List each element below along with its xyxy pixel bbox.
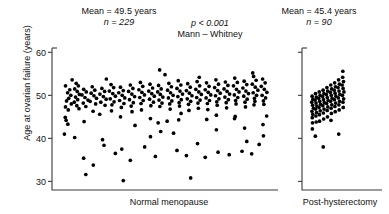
scatter-point — [89, 91, 93, 95]
scatter-point — [205, 81, 209, 85]
scatter-point — [98, 112, 102, 116]
scatter-point — [241, 86, 245, 90]
scatter-point — [215, 128, 219, 132]
scatter-point — [119, 106, 123, 110]
scatter-point — [156, 121, 160, 125]
scatter-point — [198, 98, 202, 102]
scatter-point — [177, 118, 181, 122]
scatter-point — [321, 104, 325, 108]
scatter-point — [254, 78, 258, 82]
scatter-point — [314, 120, 318, 124]
scatter-point — [214, 94, 218, 98]
scatter-point — [76, 84, 80, 88]
scatter-point — [178, 89, 182, 93]
scatter-point — [195, 80, 199, 84]
scatter-point — [310, 116, 314, 120]
scatter-point — [243, 100, 247, 104]
scatter-point — [207, 84, 211, 88]
scatter-point — [318, 119, 322, 123]
scatter-point — [175, 87, 179, 91]
scatter-point — [72, 100, 76, 104]
scatter-point — [203, 155, 207, 159]
scatter-point — [108, 89, 112, 93]
scatter-point — [90, 85, 94, 89]
scatter-point — [200, 93, 204, 97]
scatter-point — [102, 95, 106, 99]
scatter-point — [245, 83, 249, 87]
scatter-point — [228, 92, 232, 96]
scatter-point — [118, 99, 122, 103]
scatter-point — [262, 103, 266, 107]
scatter-point — [318, 109, 322, 113]
scatter-point — [157, 84, 161, 88]
scatter-point — [236, 96, 240, 100]
scatter-point — [94, 102, 98, 106]
scatter-point — [141, 84, 145, 88]
scatter-point — [139, 81, 143, 85]
scatter-point — [170, 99, 174, 103]
scatter-point — [114, 94, 118, 98]
scatter-point — [250, 82, 254, 86]
scatter-point — [205, 118, 209, 122]
scatter-point — [170, 85, 174, 89]
scatter-point — [175, 149, 179, 153]
scatter-point — [114, 152, 118, 156]
scatter-point — [110, 103, 114, 107]
scatter-point — [178, 104, 182, 108]
scatter-point — [185, 97, 189, 101]
scatter-point — [213, 86, 217, 90]
scatter-point — [121, 179, 125, 183]
scatter-point — [167, 81, 171, 85]
scatter-point — [333, 105, 337, 109]
scatter-point — [159, 87, 163, 91]
scatter-point — [251, 91, 255, 95]
scatter-point — [66, 108, 70, 112]
scatter-point — [122, 102, 126, 106]
scatter-point — [179, 98, 183, 102]
scatter-point — [217, 82, 221, 86]
scatter-point — [149, 117, 153, 121]
scatter-point — [98, 92, 102, 96]
scatter-point — [91, 109, 95, 113]
scatter-point — [218, 91, 222, 95]
scatter-point — [333, 98, 337, 102]
scatter-point — [109, 83, 113, 87]
scatter-point — [341, 100, 345, 104]
scatter-point — [216, 150, 220, 154]
scatter-point — [186, 82, 190, 86]
scatter-point — [252, 75, 256, 79]
scatter-point — [330, 112, 334, 116]
scatter-point — [143, 93, 147, 97]
scatter-point — [341, 69, 345, 73]
scatter-point — [197, 75, 201, 79]
scatter-point — [189, 100, 193, 104]
scatter-point — [185, 154, 189, 158]
scatter-point — [143, 145, 147, 149]
scatter-point — [233, 76, 237, 80]
scatter-point — [260, 93, 264, 97]
scatter-point — [245, 97, 249, 101]
scatter-point — [93, 88, 97, 92]
scatter-point — [341, 106, 345, 110]
scatter-point — [149, 104, 153, 108]
scatter-point — [82, 120, 86, 124]
scatter-point — [81, 101, 85, 105]
scatter-point — [119, 115, 123, 119]
plot-svg: 30405060 — [0, 0, 389, 214]
scatter-point — [264, 96, 268, 100]
scatter-point — [148, 97, 152, 101]
scatter-point — [66, 122, 70, 126]
scatter-point — [253, 85, 257, 89]
scatter-point — [336, 96, 340, 100]
scatter-point — [262, 87, 266, 91]
scatter-point — [232, 84, 236, 88]
scatter-point — [322, 117, 326, 121]
scatter-point — [163, 73, 167, 77]
scatter-point — [110, 109, 114, 113]
scatter-point — [158, 68, 162, 72]
scatter-point — [311, 112, 315, 116]
scatter-point — [66, 91, 70, 95]
scatter-point — [176, 95, 180, 99]
scatter-point — [235, 81, 239, 85]
scatter-point — [130, 110, 134, 114]
